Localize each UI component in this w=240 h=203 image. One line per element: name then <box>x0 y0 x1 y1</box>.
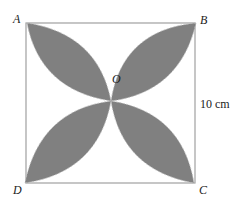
label-c: C <box>199 183 208 197</box>
label-o: O <box>112 72 121 86</box>
label-d: D <box>12 183 22 197</box>
side-length-label: 10 cm <box>200 97 230 111</box>
label-a: A <box>12 12 21 26</box>
petal-a <box>27 23 111 101</box>
petal-c <box>111 101 194 183</box>
label-b: B <box>200 13 208 27</box>
four-petal-square-diagram: A B C D O 10 cm <box>0 0 240 203</box>
petal-d <box>25 101 111 183</box>
petal-b <box>111 23 196 101</box>
